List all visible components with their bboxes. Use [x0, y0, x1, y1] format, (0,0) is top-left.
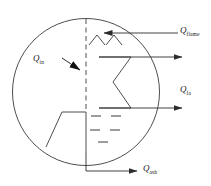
- hopper-shape: [46, 112, 86, 152]
- label-q-ash: Qash: [143, 164, 157, 175]
- label-q-flame-subscript: flame: [187, 31, 200, 37]
- liquid-dashes: [90, 116, 121, 142]
- label-q-flame: Qflame: [180, 26, 200, 37]
- label-q-fa: Qfa: [180, 85, 191, 96]
- flame-symbol-right-icon: [106, 35, 122, 45]
- label-q-ash-subscript: ash: [150, 169, 158, 175]
- label-q-in: Qin: [33, 54, 44, 65]
- flame-symbol-left-icon: [89, 35, 105, 45]
- label-q-fa-subscript: fa: [187, 90, 191, 96]
- arrow-q-in: [62, 58, 80, 70]
- diagram-canvas: Qin Qflame Qfa Qash: [0, 0, 211, 186]
- label-q-in-subscript: in: [40, 59, 44, 65]
- chevron-banner-shape: [99, 57, 131, 108]
- arrow-q-ash-elbow: [86, 152, 137, 171]
